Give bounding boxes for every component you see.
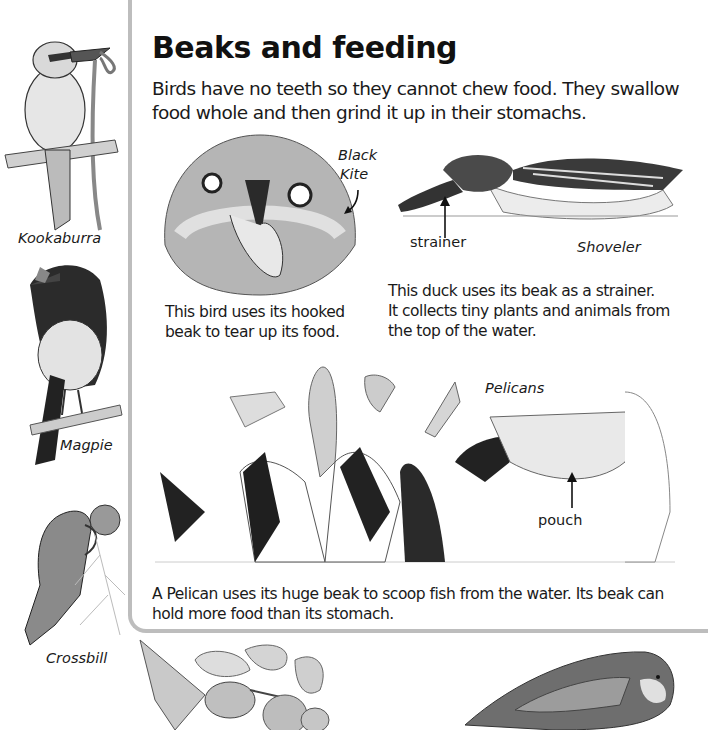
shoveler-drawing	[393, 150, 688, 230]
intro-paragraph: Birds have no teeth so they cannot chew …	[152, 77, 687, 125]
crossbill-drawing	[0, 485, 130, 655]
black-kite-label-line2: Kite	[338, 165, 377, 184]
kookaburra-label: Kookaburra	[18, 230, 101, 246]
page-title: Beaks and feeding	[152, 30, 457, 65]
kookaburra-drawing	[0, 30, 130, 260]
pelicans-label: Pelicans	[485, 380, 544, 396]
shoveler-caption-line3: the top of the water.	[388, 321, 670, 341]
pouch-label: pouch	[538, 512, 582, 528]
pelicans-caption-line2: hold more food than its stomach.	[152, 604, 687, 624]
pelicans-caption: A Pelican uses its huge beak to scoop fi…	[152, 584, 687, 624]
pouch-arrow-icon	[566, 472, 578, 510]
black-kite-label: Black Kite	[338, 146, 377, 184]
black-kite-caption-line1: This bird uses its hooked	[165, 302, 345, 322]
shoveler-label: Shoveler	[577, 239, 641, 255]
shoveler-caption-line1: This duck uses its beak as a strainer.	[388, 281, 670, 301]
black-kite-caption-line2: beak to tear up its food.	[165, 322, 345, 342]
black-kite-label-line1: Black	[338, 146, 377, 165]
strainer-label: strainer	[410, 234, 466, 250]
magpie-label: Magpie	[60, 437, 113, 453]
pelicans-drawing	[155, 362, 685, 577]
shoveler-caption-line2: It collects tiny plants and animals from	[388, 301, 670, 321]
crossbill-label: Crossbill	[46, 650, 107, 666]
black-kite-arrow-icon	[340, 188, 370, 218]
hummingbird-flower-drawing	[135, 640, 355, 730]
pelicans-caption-line1: A Pelican uses its huge beak to scoop fi…	[152, 584, 687, 604]
parrot-drawing	[455, 640, 685, 730]
black-kite-caption: This bird uses its hooked beak to tear u…	[165, 302, 345, 342]
black-kite-drawing	[160, 135, 360, 295]
shoveler-caption: This duck uses its beak as a strainer. I…	[388, 281, 670, 341]
